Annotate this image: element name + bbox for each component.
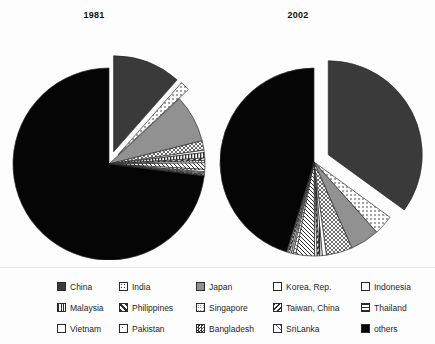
legend-label-pakistan: Pakistan bbox=[132, 324, 165, 334]
legend-swatch-others bbox=[361, 324, 370, 333]
legend-swatch-taiwan bbox=[273, 303, 282, 312]
legend-item-pakistan: Pakistan bbox=[119, 324, 196, 334]
legend-item-singapore: Singapore bbox=[196, 303, 273, 313]
legend-item-bangladesh: Bangladesh bbox=[196, 324, 273, 334]
pie-chart-1981 bbox=[8, 22, 212, 260]
legend-swatch-china bbox=[57, 282, 66, 291]
legend-label-china: China bbox=[70, 282, 92, 292]
legend-item-malaysia: Malaysia bbox=[57, 303, 119, 313]
legend-row-1: China India Japan Korea, Rep. Indonesia bbox=[0, 276, 435, 297]
legend-swatch-korea bbox=[273, 282, 282, 291]
legend-label-malaysia: Malaysia bbox=[70, 303, 104, 313]
legend-swatch-indonesia bbox=[361, 282, 370, 291]
legend-label-korea: Korea, Rep. bbox=[286, 282, 331, 292]
legend-item-taiwan: Taiwan, China bbox=[273, 303, 361, 313]
legend-swatch-srilanka bbox=[273, 324, 282, 333]
legend-item-china: China bbox=[57, 282, 119, 292]
legend-swatch-malaysia bbox=[57, 303, 66, 312]
legend-swatch-vietnam bbox=[57, 324, 66, 333]
legend-label-thailand: Thailand bbox=[374, 303, 407, 313]
chart-legend: China India Japan Korea, Rep. Indonesia … bbox=[0, 272, 435, 344]
legend-swatch-singapore bbox=[196, 303, 205, 312]
pie-chart-2002 bbox=[214, 22, 426, 260]
legend-item-others: others bbox=[361, 324, 431, 334]
legend-row-2: Malaysia Philippines Singapore Taiwan, C… bbox=[0, 297, 435, 318]
legend-swatch-bangladesh bbox=[196, 324, 205, 333]
legend-item-srilanka: SriLanka bbox=[273, 324, 361, 334]
legend-swatch-india bbox=[119, 282, 128, 291]
chart-canvas: 1981 2002 bbox=[0, 0, 435, 344]
legend-swatch-pakistan bbox=[119, 324, 128, 333]
legend-label-srilanka: SriLanka bbox=[286, 324, 320, 334]
legend-label-india: India bbox=[132, 282, 150, 292]
legend-item-japan: Japan bbox=[196, 282, 273, 292]
legend-label-singapore: Singapore bbox=[209, 303, 248, 313]
legend-label-philippines: Philippines bbox=[132, 303, 173, 313]
legend-row-3: Vietnam Pakistan Bangladesh SriLanka oth… bbox=[0, 318, 435, 339]
pie-1981-svg bbox=[8, 22, 212, 260]
legend-swatch-thailand bbox=[361, 303, 370, 312]
legend-item-korea: Korea, Rep. bbox=[273, 282, 361, 292]
legend-divider bbox=[0, 267, 435, 268]
pie-title-1981: 1981 bbox=[64, 10, 124, 20]
pie-title-2002: 2002 bbox=[268, 10, 328, 20]
pie-2002-svg bbox=[214, 22, 426, 260]
legend-item-philippines: Philippines bbox=[119, 303, 196, 313]
legend-item-vietnam: Vietnam bbox=[57, 324, 119, 334]
legend-label-taiwan: Taiwan, China bbox=[286, 303, 339, 313]
legend-item-india: India bbox=[119, 282, 196, 292]
legend-item-indonesia: Indonesia bbox=[361, 282, 431, 292]
legend-label-vietnam: Vietnam bbox=[70, 324, 101, 334]
legend-swatch-japan bbox=[196, 282, 205, 291]
legend-label-others: others bbox=[374, 324, 398, 334]
legend-label-japan: Japan bbox=[209, 282, 232, 292]
legend-label-indonesia: Indonesia bbox=[374, 282, 411, 292]
legend-label-bangladesh: Bangladesh bbox=[209, 324, 254, 334]
legend-item-thailand: Thailand bbox=[361, 303, 431, 313]
legend-swatch-philippines bbox=[119, 303, 128, 312]
pie-charts-area: 1981 2002 bbox=[0, 0, 435, 268]
